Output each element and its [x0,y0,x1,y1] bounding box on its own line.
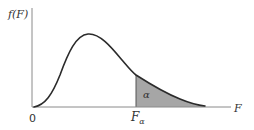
alpha-area-label: α [143,89,150,100]
y-axis-label: f(F) [7,8,28,21]
f-distribution-chart: f(F) 0 F Fα α [0,0,254,130]
critical-value-label: Fα [130,110,145,126]
critical-value-subscript: α [139,117,145,126]
origin-label: 0 [29,112,36,125]
density-curve [34,34,205,107]
x-axis-label: F [233,102,242,115]
